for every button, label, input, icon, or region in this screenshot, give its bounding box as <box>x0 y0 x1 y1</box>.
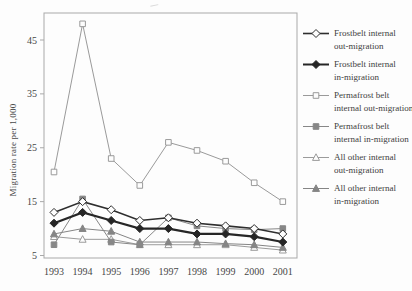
data-point <box>51 242 57 248</box>
data-point <box>193 230 201 238</box>
swatch-marker <box>312 61 320 69</box>
y-tick-label: 25 <box>27 142 37 153</box>
legend-line1: Permafrost belt <box>334 121 389 131</box>
data-point <box>50 208 58 216</box>
x-tick-label: 1997 <box>158 266 178 277</box>
legend-line2: out-migration <box>334 165 384 175</box>
legend-label: Permafrost belt internal out-migration <box>334 89 412 115</box>
data-point <box>79 225 86 232</box>
data-point <box>107 216 115 224</box>
filled-square-icon <box>303 120 331 133</box>
legend-line2: internal out-migration <box>334 103 412 113</box>
data-point <box>136 216 144 224</box>
legend-item-other-in: All other internal in-migration <box>303 182 412 208</box>
legend-label: Frostbelt internal out-migration <box>334 27 396 53</box>
series-line <box>54 24 283 202</box>
swatch-marker <box>313 93 319 99</box>
open-triangle-icon <box>303 151 331 164</box>
y-tick-label: 5 <box>32 250 37 261</box>
legend-label: All other internal out-migration <box>334 151 396 177</box>
data-point <box>137 242 143 248</box>
legend-item-frostbelt-in: Frostbelt internal in-migration <box>303 58 412 84</box>
figure: 4535251551993199419951996199719981999200… <box>0 0 412 291</box>
data-point <box>108 156 114 162</box>
y-tick-label: 15 <box>27 196 37 207</box>
legend-label: Frostbelt internal in-migration <box>334 58 396 84</box>
legend-item-frostbelt-out: Frostbelt internal out-migration <box>303 27 412 53</box>
series-2 <box>51 21 285 204</box>
data-point <box>194 148 200 154</box>
legend-line2: in-migration <box>334 196 379 206</box>
open-square-icon <box>303 89 331 102</box>
data-point <box>50 219 58 227</box>
legend: Frostbelt internal out-migration Frostbe… <box>303 27 412 213</box>
swatch-marker <box>312 30 320 38</box>
y-axis-title: Migration rate per 1,000 <box>8 67 20 233</box>
legend-label: Permafrost belt internal in-migration <box>334 120 409 146</box>
data-point <box>136 225 144 233</box>
legend-item-permafrost-in: Permafrost belt internal in-migration <box>303 120 412 146</box>
legend-line1: Frostbelt internal <box>334 28 396 38</box>
data-point <box>137 183 143 189</box>
data-point <box>250 233 258 241</box>
legend-line1: Frostbelt internal <box>334 59 396 69</box>
open-diamond-icon <box>303 27 331 40</box>
data-point <box>279 238 287 246</box>
legend-line2: internal in-migration <box>334 134 409 144</box>
data-point <box>280 199 286 205</box>
data-point <box>51 169 57 175</box>
x-tick-label: 1994 <box>73 266 93 277</box>
filled-diamond-icon <box>303 58 331 71</box>
data-point <box>223 158 229 164</box>
swatch-marker <box>313 124 319 130</box>
x-tick-label: 1993 <box>44 266 64 277</box>
x-tick-label: 1995 <box>101 266 121 277</box>
legend-item-other-out: All other internal out-migration <box>303 151 412 177</box>
legend-label: All other internal in-migration <box>334 182 396 208</box>
x-tick-label: 2000 <box>244 266 264 277</box>
y-tick-label: 35 <box>27 88 37 99</box>
y-tick-label: 45 <box>27 35 37 46</box>
legend-item-permafrost-out: Permafrost belt internal out-migration <box>303 89 412 115</box>
data-point <box>79 208 87 216</box>
legend-line1: Permafrost belt <box>334 90 389 100</box>
data-point <box>164 225 172 233</box>
filled-triangle-icon <box>303 182 331 195</box>
data-point <box>80 21 86 27</box>
data-point <box>107 206 115 214</box>
data-point <box>108 239 114 245</box>
legend-line2: in-migration <box>334 72 379 82</box>
legend-line1: All other internal <box>334 183 396 193</box>
data-point <box>251 180 257 186</box>
x-tick-label: 2001 <box>273 266 293 277</box>
x-tick-label: 1999 <box>216 266 236 277</box>
legend-line1: All other internal <box>334 152 396 162</box>
x-tick-label: 1996 <box>130 266 150 277</box>
legend-line2: out-migration <box>334 41 384 51</box>
data-point <box>166 140 172 146</box>
x-tick-label: 1998 <box>187 266 207 277</box>
plot-frame <box>44 13 297 258</box>
